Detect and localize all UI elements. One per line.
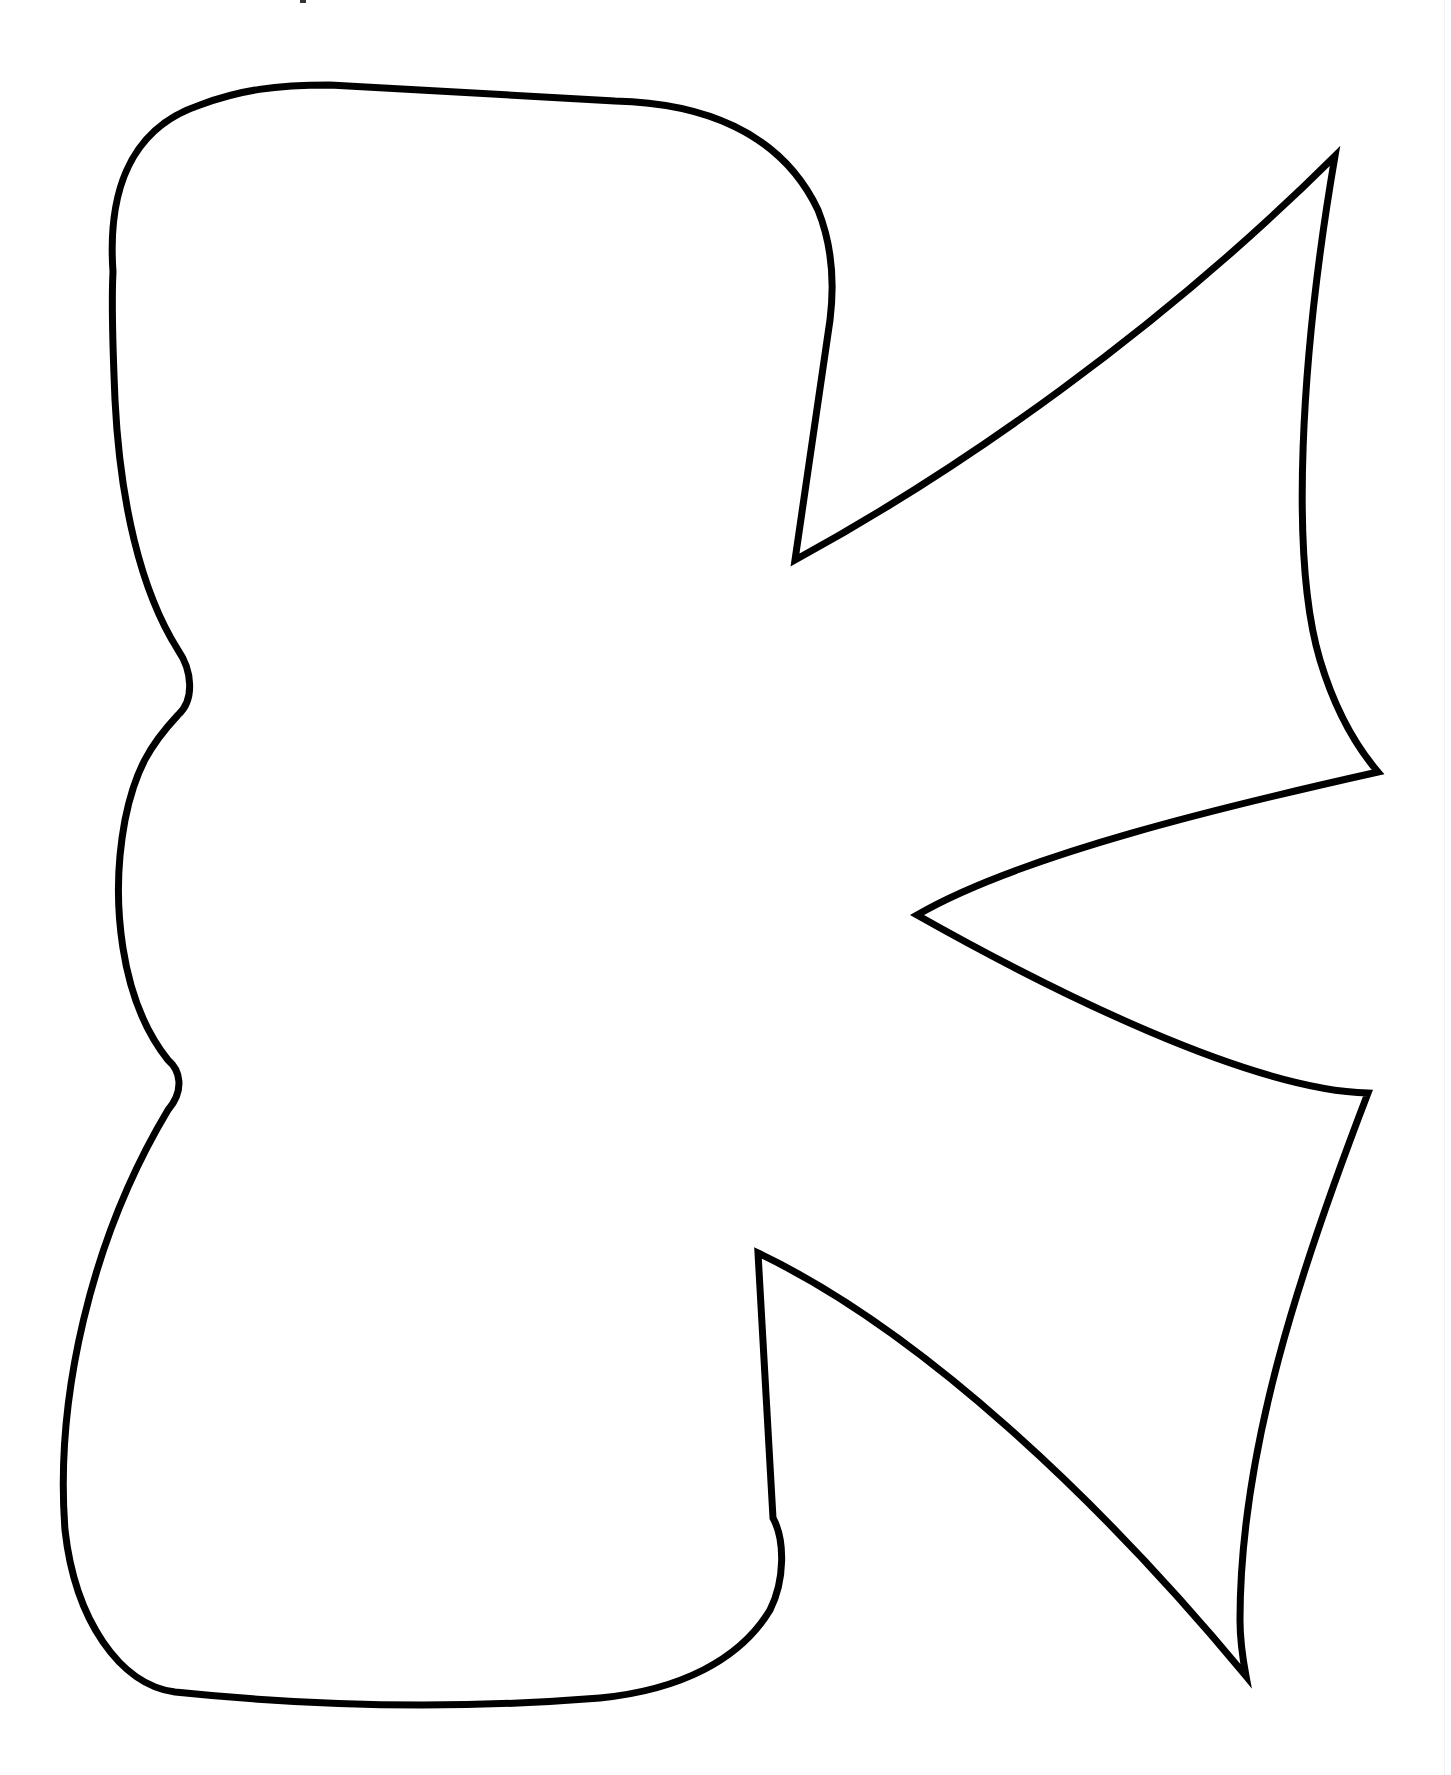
letter-k-outline (0, 0, 1451, 1775)
scan-edge-line (1444, 0, 1445, 1775)
cropped-text-fragment (300, 0, 306, 3)
letter-k-shape (63, 85, 1378, 1705)
